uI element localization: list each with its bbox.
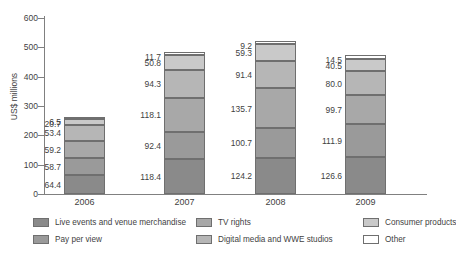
bar-segment-value-label: 100.7 bbox=[231, 139, 252, 148]
legend-swatch bbox=[196, 218, 212, 227]
legend-item[interactable]: Other bbox=[363, 233, 405, 245]
bar-segment: 9.2 bbox=[255, 41, 296, 44]
legend-label: TV rights bbox=[218, 218, 251, 227]
bar-segment: 118.4 bbox=[164, 159, 205, 194]
x-axis-tick-label: 2008 bbox=[241, 197, 311, 207]
bar-segment: 59.3 bbox=[255, 44, 296, 61]
bar-segment: 53.4 bbox=[64, 125, 105, 141]
bar-segment-value-label: 59.2 bbox=[44, 146, 61, 155]
bar-segment-value-label: 135.7 bbox=[231, 105, 252, 114]
bar-segment: 99.7 bbox=[345, 95, 386, 124]
legend-swatch bbox=[363, 235, 379, 244]
bar-segment-value-label: 118.1 bbox=[140, 111, 161, 120]
legend-swatch bbox=[196, 235, 212, 244]
bar-segment-value-label: 124.2 bbox=[231, 172, 252, 181]
bar-segment: 80.0 bbox=[345, 71, 386, 94]
y-axis-tick-label: 0 bbox=[5, 190, 38, 199]
bar-segment-value-label: 111.9 bbox=[322, 137, 342, 146]
y-axis-tick-label: 300 bbox=[5, 102, 38, 111]
bar-segment-value-label: 118.4 bbox=[140, 173, 161, 182]
bar-segment: 124.2 bbox=[255, 158, 296, 194]
legend-item[interactable]: Digital media and WWE studios bbox=[196, 233, 333, 245]
chart-legend: Live events and venue merchandiseTV righ… bbox=[33, 216, 433, 250]
x-axis-tick-label: 2007 bbox=[150, 197, 220, 207]
bar-segment: 50.8 bbox=[164, 55, 205, 70]
x-axis-tick-label: 2009 bbox=[331, 197, 401, 207]
y-axis-tick-label: 100 bbox=[5, 161, 38, 170]
plot-area: 64.458.759.253.420.76.5118.492.4118.194.… bbox=[44, 14, 427, 194]
y-axis-tick-label: 200 bbox=[5, 131, 38, 140]
legend-swatch bbox=[363, 218, 379, 227]
bar-segment: 111.9 bbox=[345, 124, 386, 157]
bar-group: 126.6111.999.780.040.514.5 bbox=[345, 14, 386, 194]
legend-item[interactable]: Pay per view bbox=[33, 233, 102, 245]
x-axis-tick-label: 2006 bbox=[50, 197, 120, 207]
bar-group: 64.458.759.253.420.76.5 bbox=[64, 14, 105, 194]
legend-item[interactable]: Consumer products bbox=[363, 216, 456, 228]
bar-segment-value-label: 14.5 bbox=[325, 56, 342, 65]
legend-label: Digital media and WWE studios bbox=[218, 235, 333, 244]
bar-segment: 135.7 bbox=[255, 88, 296, 128]
bar-segment-value-label: 11.7 bbox=[145, 53, 161, 62]
bar-segment-value-label: 94.3 bbox=[144, 80, 161, 89]
bar-segment: 92.4 bbox=[164, 132, 205, 159]
bar-segment-value-label: 64.4 bbox=[44, 181, 61, 190]
x-axis-line bbox=[44, 194, 427, 195]
bar-segment: 126.6 bbox=[345, 157, 386, 194]
bar-segment-value-label: 80.0 bbox=[325, 80, 342, 89]
legend-label: Consumer products bbox=[385, 218, 456, 227]
bar-segment-value-label: 126.6 bbox=[321, 172, 342, 181]
bar-group: 118.492.4118.194.350.811.7 bbox=[164, 14, 205, 194]
y-axis-tick-label: 400 bbox=[5, 73, 38, 82]
bar-segment-value-label: 92.4 bbox=[144, 142, 161, 151]
bar-segment-value-label: 99.7 bbox=[325, 106, 342, 115]
bar-segment-value-label: 9.2 bbox=[240, 42, 252, 51]
bar-segment: 100.7 bbox=[255, 128, 296, 158]
y-axis-tick-label: 500 bbox=[5, 43, 38, 52]
bar-segment: 94.3 bbox=[164, 70, 205, 98]
bar-segment: 40.5 bbox=[345, 59, 386, 71]
legend-label: Live events and venue merchandise bbox=[55, 218, 186, 227]
bar-segment-value-label: 6.5 bbox=[49, 118, 61, 127]
bar-segment: 91.4 bbox=[255, 61, 296, 88]
bar-group: 124.2100.7135.791.459.39.2 bbox=[255, 14, 296, 194]
legend-swatch bbox=[33, 218, 49, 227]
bar-segment: 118.1 bbox=[164, 98, 205, 133]
legend-label: Pay per view bbox=[55, 235, 102, 244]
bar-segment-value-label: 58.7 bbox=[44, 163, 61, 172]
bar-segment: 6.5 bbox=[64, 117, 105, 119]
bar-segment: 20.7 bbox=[64, 119, 105, 125]
bar-segment: 64.4 bbox=[64, 175, 105, 194]
bar-segment: 11.7 bbox=[164, 52, 205, 55]
legend-item[interactable]: Live events and venue merchandise bbox=[33, 216, 186, 228]
legend-label: Other bbox=[385, 235, 405, 244]
legend-item[interactable]: TV rights bbox=[196, 216, 251, 228]
bar-segment-value-label: 53.4 bbox=[44, 129, 61, 138]
y-axis-tick-label: 600 bbox=[5, 14, 38, 23]
legend-swatch bbox=[33, 235, 49, 244]
bar-segment-value-label: 91.4 bbox=[235, 71, 252, 80]
bar-segment: 58.7 bbox=[64, 158, 105, 175]
bar-segment: 14.5 bbox=[345, 55, 386, 59]
bar-segment: 59.2 bbox=[64, 141, 105, 158]
